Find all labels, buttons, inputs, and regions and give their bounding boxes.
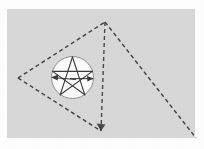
figure-root <box>0 0 204 149</box>
figure-canvas <box>0 0 204 149</box>
scanned-paper-sheet <box>7 9 195 138</box>
